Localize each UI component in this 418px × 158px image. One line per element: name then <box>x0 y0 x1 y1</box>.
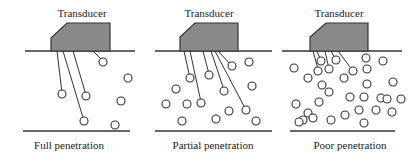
particle-circle <box>178 117 186 125</box>
particle-circle <box>355 106 363 114</box>
particle-circle <box>242 106 250 114</box>
particle-circle <box>82 92 90 100</box>
particle-circle <box>332 56 340 64</box>
particle-circle <box>186 74 194 82</box>
particle-circle <box>346 93 354 101</box>
transducer-shape <box>180 23 238 51</box>
particle-circle <box>111 121 119 129</box>
particle-circle <box>341 111 349 119</box>
particle-circle <box>304 74 312 82</box>
particle-circle <box>205 71 213 79</box>
particle-circle <box>58 90 66 98</box>
particle-circle <box>327 116 335 124</box>
particle-circle <box>360 119 368 127</box>
particle-circle <box>325 88 333 96</box>
ultrasound-ray <box>215 51 246 110</box>
caption-full-penetration: Full penetration <box>34 139 104 151</box>
particle-circle <box>252 117 260 125</box>
particle-circle <box>290 64 298 72</box>
transducer-label: Transducer <box>314 7 363 19</box>
transducer-shape <box>310 23 368 51</box>
particle-circle <box>309 114 317 122</box>
particle-circle <box>372 106 380 114</box>
particle-circle <box>397 95 405 103</box>
particle-circle <box>183 100 191 108</box>
particle-circle <box>80 117 88 125</box>
particle-circle <box>248 82 256 90</box>
ultrasound-ray <box>63 51 84 121</box>
particle-circle <box>349 67 357 75</box>
particle-circle <box>379 57 387 65</box>
particle-circle <box>317 57 325 65</box>
transducer-label: Transducer <box>57 7 106 19</box>
ultrasound-ray <box>211 51 224 90</box>
particle-circle <box>228 62 236 70</box>
particle-circle <box>225 107 233 115</box>
transducer-label: Transducer <box>184 7 233 19</box>
particle-circle <box>172 85 180 93</box>
caption-partial-penetration: Partial penetration <box>173 139 254 151</box>
particle-circle <box>295 118 303 126</box>
particle-circle <box>318 81 326 89</box>
panel-full-penetration: Transducer Full penetration <box>23 7 135 151</box>
particle-circle <box>388 108 396 116</box>
particle-circle <box>360 93 368 101</box>
particle-circle <box>99 58 107 66</box>
particle-circle <box>340 74 348 82</box>
particle-circle <box>389 78 397 86</box>
particle-circle <box>315 98 323 106</box>
ultrasound-ray <box>73 51 86 95</box>
particle-circle <box>124 74 132 82</box>
particle-circle <box>325 65 333 73</box>
particle-circle <box>212 115 220 123</box>
particle-circle <box>245 58 253 66</box>
panel-poor-penetration: Transducer Poor penetration <box>282 7 405 151</box>
particle-circle <box>197 99 205 107</box>
particle-circle <box>162 100 170 108</box>
particle-circle <box>314 67 322 75</box>
particle-circle <box>292 100 300 108</box>
particle-circle <box>117 97 125 105</box>
caption-poor-penetration: Poor penetration <box>313 139 387 151</box>
particle-circle <box>220 87 228 95</box>
panel-partial-penetration: Transducer Partial penetration <box>155 7 272 151</box>
transducer-shape <box>51 23 110 51</box>
penetration-diagram: Transducer Full penetration Transducer P… <box>0 0 418 158</box>
particle-circle <box>363 65 371 73</box>
particle-circle <box>362 54 370 62</box>
ultrasound-ray <box>57 51 62 93</box>
particle-circle <box>383 95 391 103</box>
particle-circle <box>363 80 371 88</box>
